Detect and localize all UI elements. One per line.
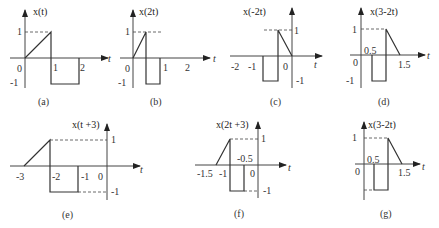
panel-c-title: x(-2t) [243,6,266,18]
svg-text:0: 0 [283,61,288,72]
svg-text:1: 1 [53,62,58,73]
svg-text:-3: -3 [16,171,24,182]
svg-text:1.5: 1.5 [398,59,411,70]
panel-b: x(2t) 1 -1 0 1 2 t (b) [118,6,216,108]
panel-g: x(3-2t) 1 0 0.5 1.5 t (g) [352,119,425,220]
svg-text:1: 1 [352,132,357,143]
panel-d-title: x(3-2t) [370,6,398,18]
svg-text:-2: -2 [231,61,239,72]
panel-f-caption: (f) [234,208,244,220]
svg-text:t: t [213,53,216,64]
panel-b-title: x(2t) [139,6,158,18]
svg-text:2: 2 [185,62,190,73]
panel-e-caption: (e) [62,209,73,221]
svg-text:-1: -1 [219,168,227,179]
svg-text:0.5: 0.5 [364,45,377,56]
svg-text:1.5: 1.5 [398,167,411,178]
svg-text:1: 1 [111,134,116,145]
svg-text:1: 1 [294,25,299,36]
svg-text:0: 0 [125,63,130,74]
svg-text:0: 0 [98,171,103,182]
svg-text:-1: -1 [263,185,271,196]
panel-e: x(t +3) 1 -1 -3 -2 -1 0 t (e) [10,119,143,221]
svg-text:0: 0 [353,57,358,68]
svg-text:t: t [314,59,317,70]
svg-text:t: t [140,164,143,175]
panel-g-caption: (g) [380,208,392,220]
svg-text:1: 1 [163,62,168,73]
panel-d-caption: (d) [378,96,390,108]
panel-c-caption: (c) [270,96,281,108]
svg-text:1: 1 [17,26,22,37]
svg-text:-1: -1 [81,171,89,182]
svg-text:-1: -1 [346,75,354,86]
panel-f: x(2t +3) 1 -1 -1.5 -1 -0.5 0 t (f) [195,119,291,220]
signal-figure: x(t) 1 -1 0 1 2 t (a) x(2t) 1 -1 0 1 2 t… [0,0,439,228]
svg-text:t: t [288,162,291,173]
svg-text:0: 0 [355,166,360,177]
panel-b-caption: (b) [150,96,162,108]
panel-f-title: x(2t +3) [216,119,249,131]
svg-text:0: 0 [17,63,22,74]
svg-text:t: t [427,50,430,61]
panel-d: x(3-2t) 1 -1 0 0.5 1.5 t (d) [346,6,430,108]
svg-text:-2: -2 [52,171,60,182]
svg-text:-1: -1 [296,75,304,86]
svg-text:1: 1 [261,133,266,144]
svg-text:1: 1 [125,26,130,37]
panel-a-caption: (a) [38,96,49,108]
panel-a-title: x(t) [33,6,47,18]
panel-a: x(t) 1 -1 0 1 2 t (a) [10,6,111,108]
svg-text:2: 2 [80,62,85,73]
svg-text:0.5: 0.5 [367,154,380,165]
panel-g-title: x(3-2t) [368,119,396,131]
svg-text:0: 0 [250,168,255,179]
panel-c: x(-2t) 1 -1 -2 -1 0 t (c) [230,6,322,108]
svg-text:-1.5: -1.5 [197,168,213,179]
svg-text:t: t [108,53,111,64]
svg-text:-1: -1 [118,77,126,88]
svg-text:-1: -1 [10,77,18,88]
svg-text:-1: -1 [248,61,256,72]
svg-text:t: t [422,161,425,172]
svg-text:-0.5: -0.5 [237,153,253,164]
svg-text:1: 1 [352,24,357,35]
svg-text:-1: -1 [111,186,119,197]
panel-e-title: x(t +3) [72,119,100,131]
